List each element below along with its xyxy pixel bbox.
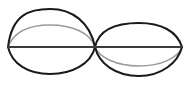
figure-canvas <box>0 0 190 94</box>
lemniscate-diagram-svg <box>0 0 190 94</box>
